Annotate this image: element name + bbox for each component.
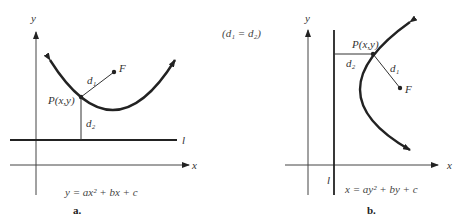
y-axis-label-b: y <box>304 12 310 24</box>
directrix-label-a: l <box>182 134 185 146</box>
directrix-label-b: l <box>327 174 330 186</box>
x-axis-label-a: x <box>191 159 197 171</box>
d1-segment-a <box>81 72 114 97</box>
caption-b: b. <box>367 204 376 216</box>
point-label-a: P(x,y) <box>47 94 75 107</box>
d2-label-b: d₂ <box>346 57 356 69</box>
panel-b: y x l P(x,y) F d₁ d₂ x = ay² + by + c b. <box>285 12 452 216</box>
focus-label-a: F <box>118 62 126 74</box>
y-axis-label-a: y <box>30 12 36 24</box>
x-axis-label-b: x <box>446 159 452 171</box>
panel-a: y x l P(x,y) F d₁ d₂ y = ax² + bx + c a. <box>10 12 197 216</box>
parabola-diagram: y x l P(x,y) F d₁ d₂ y = ax² + bx + c a.… <box>0 0 459 220</box>
equation-a: y = ax² + bx + c <box>64 186 138 198</box>
point-label-b: P(x,y) <box>351 38 379 51</box>
d1-label-a: d₁ <box>87 74 97 86</box>
point-p-a <box>79 95 83 99</box>
equation-b: x = ay² + by + c <box>344 183 418 195</box>
d1-label-b: d₁ <box>390 62 400 74</box>
distance-relation: (d₁ = d₂) <box>222 27 261 40</box>
d2-label-a: d₂ <box>86 117 96 129</box>
focus-point-a <box>112 70 116 74</box>
focus-label-b: F <box>404 83 412 95</box>
focus-point-b <box>398 86 402 90</box>
caption-a: a. <box>73 204 82 216</box>
point-p-b <box>371 52 375 56</box>
